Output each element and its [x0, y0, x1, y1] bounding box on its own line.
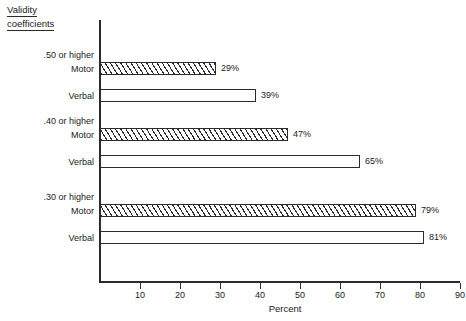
x-axis-title-label: Percent — [269, 303, 302, 314]
bar-row-label: Motor — [71, 130, 94, 140]
bar — [100, 128, 288, 141]
group-label: .50 or higher — [43, 50, 94, 60]
bar — [100, 155, 360, 168]
bar-value-label: 81% — [429, 231, 447, 244]
bar-value-label: 39% — [261, 89, 279, 102]
x-tick-label-70: 70 — [375, 290, 385, 300]
bar-row-label: Motor — [71, 64, 94, 74]
x-tick-label-60: 60 — [335, 290, 345, 300]
x-tick-label-20: 20 — [175, 290, 185, 300]
x-tick-50 — [300, 283, 301, 289]
x-tick-label-50: 50 — [295, 290, 305, 300]
bar-value-label: 79% — [421, 204, 439, 217]
bar-value-label: 47% — [293, 128, 311, 141]
bar — [100, 231, 424, 244]
x-tick-10 — [140, 283, 141, 289]
x-tick-label-10: 10 — [135, 290, 145, 300]
x-tick-80 — [420, 283, 421, 289]
bar — [100, 62, 216, 75]
x-axis-line — [99, 281, 460, 283]
bar-value-label: 65% — [365, 155, 383, 168]
x-tick-20 — [180, 283, 181, 289]
x-tick-60 — [340, 283, 341, 289]
bar-row-label: Verbal — [68, 91, 94, 101]
x-tick-label-30: 30 — [215, 290, 225, 300]
bar — [100, 89, 256, 102]
x-tick-40 — [260, 283, 261, 289]
x-tick-90 — [460, 283, 461, 289]
plot-area: 102030405060708090 .50 or higherMotor29%… — [0, 0, 466, 321]
x-tick-label-90: 90 — [455, 290, 465, 300]
validity-coefficients-bar-chart: Validity coefficients 102030405060708090… — [0, 0, 466, 321]
bar — [100, 204, 416, 217]
x-tick-label-80: 80 — [415, 290, 425, 300]
x-tick-30 — [220, 283, 221, 289]
group-label: .30 or higher — [43, 192, 94, 202]
group-label: .40 or higher — [43, 116, 94, 126]
bar-value-label: 29% — [221, 62, 239, 75]
bar-row-label: Motor — [71, 206, 94, 216]
x-tick-label-40: 40 — [255, 290, 265, 300]
bar-row-label: Verbal — [68, 157, 94, 167]
x-tick-70 — [380, 283, 381, 289]
bar-row-label: Verbal — [68, 233, 94, 243]
x-axis-title: Percent — [0, 303, 466, 314]
